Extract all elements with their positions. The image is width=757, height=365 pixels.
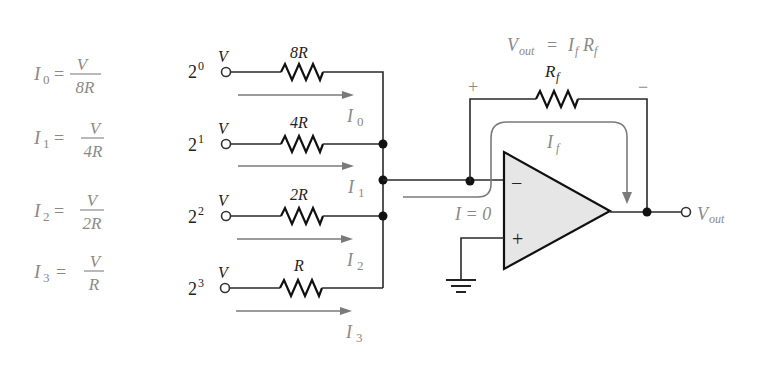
svg-text:−: − [638, 77, 648, 97]
svg-text:=: = [547, 35, 557, 55]
binary-weighted-dac-diagram: I 0 = V 8R I 1 = V 4R I 2 = V 2R I 3 = V… [0, 0, 757, 365]
svg-text:2R: 2R [290, 186, 308, 203]
svg-text:out: out [519, 44, 535, 58]
svg-text:I: I [567, 35, 575, 55]
output-formula: V out = I f R f [507, 35, 599, 58]
output-label: V out [697, 204, 725, 226]
output-junction-dot [643, 208, 652, 217]
input-terminal-1 [222, 140, 231, 149]
svg-text:R: R [88, 275, 100, 294]
svg-text:V: V [218, 264, 230, 281]
equation-i2: I 2 = V 2R [33, 191, 104, 233]
svg-text:R: R [293, 257, 304, 274]
svg-text:8R: 8R [76, 78, 96, 97]
svg-text:out: out [709, 212, 725, 226]
svg-text:=: = [54, 201, 64, 221]
svg-text:2: 2 [188, 62, 197, 82]
svg-text:=: = [54, 128, 64, 148]
resistor-8r [281, 64, 323, 80]
svg-text:1: 1 [358, 185, 365, 200]
svg-text:2R: 2R [83, 214, 103, 233]
svg-text:I: I [33, 200, 42, 221]
svg-text:V: V [87, 191, 100, 210]
svg-text:0: 0 [357, 114, 364, 129]
equation-i3: I 3 = V R [33, 252, 104, 294]
svg-text:3: 3 [356, 330, 363, 345]
svg-text:I: I [33, 261, 42, 282]
resistor-rf [536, 91, 578, 107]
input-terminal-2 [222, 212, 231, 221]
svg-text:3: 3 [43, 270, 50, 285]
equation-i1: I 1 = V 4R [33, 119, 104, 161]
input-branch-2: 2 2 V 2R I 2 [188, 186, 383, 273]
ground-icon [446, 280, 476, 292]
svg-text:1: 1 [43, 136, 50, 151]
svg-text:V: V [90, 119, 103, 138]
input-branch-1: 2 1 V 4R I 1 [188, 114, 383, 200]
svg-text:I: I [346, 106, 354, 126]
svg-text:+: + [468, 77, 478, 97]
svg-text:I: I [345, 322, 353, 342]
svg-text:V: V [77, 55, 90, 74]
svg-text:1: 1 [198, 132, 204, 146]
svg-text:f: f [594, 44, 599, 58]
svg-text:f: f [556, 141, 561, 155]
input-terminal-0 [222, 68, 231, 77]
resistor-2r [281, 208, 323, 224]
op-amp: − + [504, 152, 610, 269]
svg-text:0: 0 [198, 59, 204, 73]
svg-text:V: V [90, 252, 103, 271]
noninverting-input-label: + [512, 228, 523, 250]
svg-text:f: f [575, 44, 580, 58]
svg-text:R: R [544, 62, 556, 81]
svg-text:2: 2 [188, 207, 197, 227]
svg-text:I: I [546, 132, 554, 152]
junction-dot [379, 140, 388, 149]
svg-text:2: 2 [188, 279, 197, 299]
svg-text:=: = [56, 262, 66, 282]
equation-i0: I 0 = V 8R [33, 55, 101, 97]
svg-text:2: 2 [357, 258, 364, 273]
svg-text:4R: 4R [84, 142, 104, 161]
svg-text:V: V [218, 192, 230, 209]
output-terminal [682, 208, 691, 217]
svg-text:2: 2 [198, 204, 204, 218]
svg-text:f: f [556, 70, 561, 84]
input-current-label: I = 0 [454, 204, 491, 224]
svg-text:I: I [347, 177, 355, 197]
svg-text:V: V [218, 48, 230, 65]
junction-dot [379, 212, 388, 221]
svg-text:I: I [33, 127, 42, 148]
svg-text:8R: 8R [290, 44, 308, 61]
svg-text:I: I [33, 63, 42, 84]
inverting-input-label: − [511, 172, 522, 194]
svg-text:V: V [218, 120, 230, 137]
svg-text:4R: 4R [290, 114, 308, 131]
input-terminal-3 [221, 284, 230, 293]
svg-text:2: 2 [188, 135, 197, 155]
svg-text:=: = [54, 64, 64, 84]
resistor-r [280, 280, 322, 296]
svg-text:R: R [582, 35, 594, 55]
svg-text:3: 3 [198, 276, 204, 290]
resistor-4r [281, 136, 323, 152]
input-branch-3: 2 3 V R I 3 [188, 257, 383, 345]
svg-text:I: I [346, 250, 354, 270]
svg-text:2: 2 [43, 209, 50, 224]
svg-text:0: 0 [43, 72, 50, 87]
